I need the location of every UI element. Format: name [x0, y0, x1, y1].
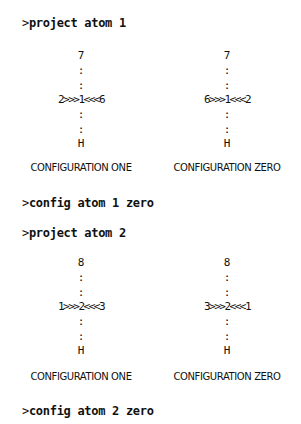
- bottom-atom: H: [6, 345, 156, 357]
- bond-dots: :: [152, 287, 301, 299]
- top-atom: 8: [152, 257, 301, 269]
- top-atom: 8: [6, 257, 156, 269]
- configuration-label: CONFIGURATION ONE: [6, 162, 156, 173]
- bond-dots: :: [6, 272, 156, 284]
- command-text: project atom 1: [29, 16, 126, 30]
- bottom-atom: H: [152, 138, 301, 150]
- configuration-label: CONFIGURATION ZERO: [152, 371, 301, 382]
- command-text: project atom 2: [29, 226, 126, 240]
- bond-dots: :: [152, 331, 301, 343]
- prompt-symbol: >: [22, 16, 29, 30]
- bottom-atom: H: [6, 138, 156, 150]
- command-line-project-atom-2: >project atom 2: [22, 226, 126, 240]
- command-line-project-atom-1: >project atom 1: [22, 16, 126, 30]
- bond-dots: :: [152, 80, 301, 92]
- bond-dots: :: [6, 65, 156, 77]
- bond-dots: :: [6, 316, 156, 328]
- center-bond-line: 3>>>2<<<1: [152, 301, 301, 313]
- bond-dots: :: [152, 124, 301, 136]
- top-atom: 7: [152, 50, 301, 62]
- bond-dots: :: [152, 316, 301, 328]
- prompt-symbol: >: [22, 226, 29, 240]
- bond-dots: :: [152, 65, 301, 77]
- prompt-symbol: >: [22, 404, 29, 418]
- command-line-config-atom-1-zero: >config atom 1 zero: [22, 196, 154, 210]
- bottom-atom: H: [152, 345, 301, 357]
- bond-dots: :: [6, 331, 156, 343]
- command-line-config-atom-2-zero: >config atom 2 zero: [22, 404, 154, 418]
- configuration-label: CONFIGURATION ONE: [6, 371, 156, 382]
- center-bond-line: 2>>>1<<<6: [6, 94, 156, 106]
- configuration-label: CONFIGURATION ZERO: [152, 162, 301, 173]
- bond-dots: :: [152, 109, 301, 121]
- bond-dots: :: [6, 109, 156, 121]
- center-bond-line: 1>>>2<<<3: [6, 301, 156, 313]
- bond-dots: :: [6, 287, 156, 299]
- bond-dots: :: [6, 124, 156, 136]
- prompt-symbol: >: [22, 196, 29, 210]
- center-bond-line: 6>>>1<<<2: [152, 94, 301, 106]
- command-text: config atom 1 zero: [29, 196, 154, 210]
- top-atom: 7: [6, 50, 156, 62]
- bond-dots: :: [6, 80, 156, 92]
- command-text: config atom 2 zero: [29, 404, 154, 418]
- bond-dots: :: [152, 272, 301, 284]
